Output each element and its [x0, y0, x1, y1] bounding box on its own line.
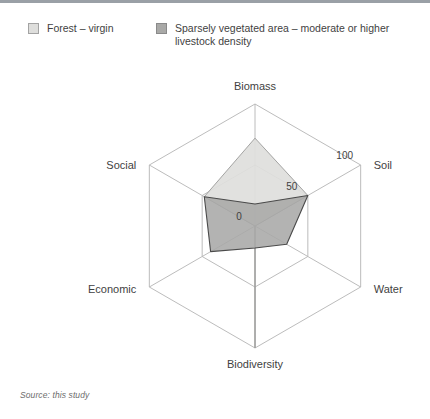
axis-label-social: Social	[106, 159, 136, 171]
axis-label-economic: Economic	[88, 283, 137, 295]
tick-label-100: 100	[336, 150, 353, 161]
tick-label-0: 0	[236, 211, 242, 222]
radar-chart-plot-area: 050100 BiomassSoilWaterBiodiversityEcono…	[0, 48, 430, 388]
top-divider	[0, 0, 430, 3]
legend-label-forest-virgin: Forest – virgin	[47, 22, 114, 35]
chart-legend: Forest – virgin Sparsely vegetated area …	[28, 22, 420, 48]
legend-item-forest-virgin[interactable]: Forest – virgin	[28, 22, 156, 35]
axis-label-water: Water	[374, 283, 403, 295]
radar-chart-figure: Forest – virgin Sparsely vegetated area …	[0, 0, 430, 419]
series-polygon-1	[204, 196, 308, 252]
source-note: Source: this study	[20, 390, 89, 400]
axis-label-biomass: Biomass	[234, 80, 277, 92]
axis-label-biodiversity: Biodiversity	[227, 358, 284, 370]
legend-swatch-forest-virgin	[28, 23, 39, 34]
axis-label-soil: Soil	[374, 159, 392, 171]
radar-series	[204, 138, 308, 348]
legend-item-sparsely-vegetated[interactable]: Sparsely vegetated area – moderate or hi…	[156, 22, 420, 48]
legend-swatch-sparsely-vegetated	[156, 23, 167, 34]
legend-label-sparsely-vegetated: Sparsely vegetated area – moderate or hi…	[175, 22, 389, 48]
tick-label-50: 50	[286, 181, 298, 192]
